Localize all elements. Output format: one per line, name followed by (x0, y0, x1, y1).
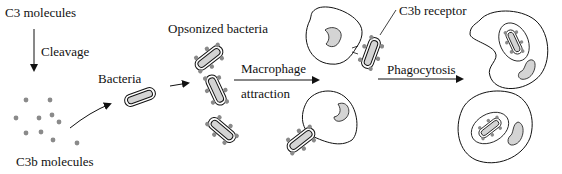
bacterium (123, 86, 157, 108)
opsonization-arrow (170, 83, 188, 86)
label-c3b-receptor: C3b receptor (399, 4, 467, 17)
label-phagocytosis: Phagocytosis (387, 63, 456, 76)
label-c3b-molecules: C3b molecules (16, 155, 94, 168)
label-bacteria: Bacteria (98, 72, 141, 85)
label-macrophage: Macrophage (241, 62, 306, 75)
opsonized-bacterium-1 (189, 39, 229, 77)
opsonized-bacterium-2 (199, 70, 233, 110)
complement-opsonization-diagram: C3 molecules Cleavage C3b molecules Bact… (0, 0, 562, 174)
c3b-molecule-dots (14, 98, 80, 146)
label-opsonized-bacteria: Opsonized bacteria (168, 22, 268, 35)
label-c3-molecules: C3 molecules (5, 6, 76, 19)
receptor-pointer-line (380, 10, 396, 35)
opsonized-bacterium-3 (202, 111, 242, 150)
label-attraction: attraction (241, 87, 290, 100)
binding-arrow (70, 104, 110, 128)
label-cleavage: Cleavage (41, 45, 89, 58)
